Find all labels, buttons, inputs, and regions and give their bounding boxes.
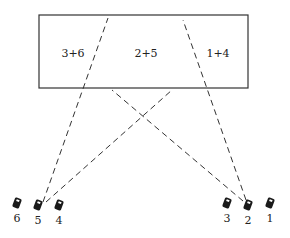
sightline-from-camera-5: [46, 90, 172, 202]
camera-number-label: 3: [224, 212, 231, 225]
camera-1: 1: [265, 197, 275, 225]
camera-number-label: 2: [245, 214, 252, 227]
camera-2: 2: [243, 199, 253, 227]
camera-number-label: 1: [267, 212, 274, 225]
region-label: 2+5: [134, 47, 157, 60]
camera-icon: [54, 199, 64, 211]
camera-number-label: 5: [35, 214, 42, 227]
camera-number-label: 4: [56, 214, 63, 227]
projection-diagram: 3+62+51+4 654321: [0, 0, 290, 238]
camera-icon: [33, 199, 43, 211]
sightline-from-camera-5: [43, 18, 108, 202]
camera-6: 6: [12, 197, 22, 225]
camera-3: 3: [222, 197, 232, 225]
region-label: 3+6: [61, 47, 84, 60]
camera-icon: [12, 197, 22, 209]
camera-number-label: 6: [14, 212, 21, 225]
camera-icon: [265, 197, 275, 209]
camera-5: 5: [33, 199, 43, 227]
camera-4: 4: [54, 199, 64, 227]
region-label: 1+4: [206, 47, 229, 60]
cameras: 654321: [12, 197, 275, 227]
camera-icon: [243, 199, 253, 211]
screen-region-labels: 3+62+51+4: [61, 47, 229, 60]
sightline-from-camera-2: [112, 90, 243, 201]
sightlines: [43, 18, 246, 202]
camera-icon: [222, 197, 232, 209]
